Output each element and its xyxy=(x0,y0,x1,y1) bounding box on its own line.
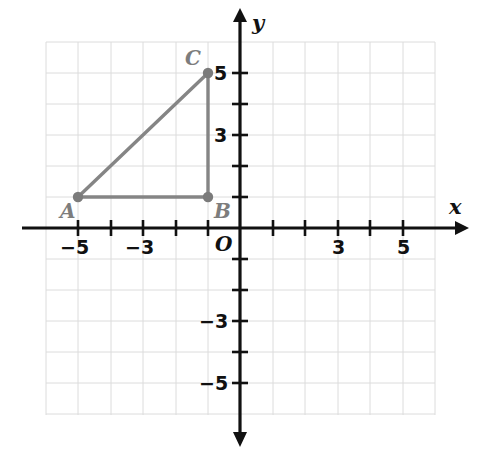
coordinate-plane-figure: −5 −3 3 5 5 3 −3 −5 O x y A B C xyxy=(0,0,482,455)
plot-canvas xyxy=(0,0,482,455)
x-tick-label-pos3: 3 xyxy=(332,238,345,257)
vertex-point-c xyxy=(203,68,213,78)
x-tick-label-neg5: −5 xyxy=(60,238,89,257)
vertex-point-b xyxy=(203,192,213,202)
y-tick-label-neg5: −5 xyxy=(199,374,228,393)
x-tick-label-neg3: −3 xyxy=(125,238,154,257)
y-axis-label: y xyxy=(252,12,264,33)
y-tick-label-pos3: 3 xyxy=(214,126,227,145)
vertex-label-a: A xyxy=(60,201,76,221)
x-axis-label: x xyxy=(449,196,462,217)
vertex-label-b: B xyxy=(214,201,231,221)
origin-label: O xyxy=(215,234,232,254)
y-tick-label-neg3: −3 xyxy=(199,312,228,331)
x-tick-label-pos5: 5 xyxy=(397,238,410,257)
x-axis xyxy=(22,220,469,236)
vertex-label-c: C xyxy=(185,48,201,68)
y-tick-label-pos5: 5 xyxy=(214,64,227,83)
